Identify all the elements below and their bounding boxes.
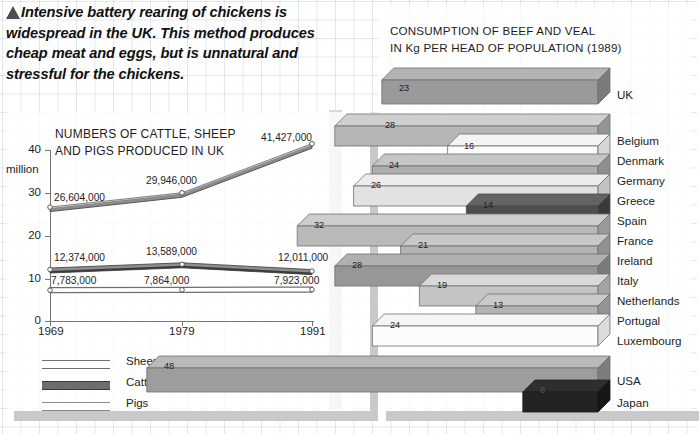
bar-label-denmark: Denmark	[617, 154, 664, 167]
bar-label-portugal: Portugal	[617, 314, 660, 327]
bar-value-japan: 8	[540, 385, 545, 395]
bar-value-belgium: 28	[385, 120, 395, 130]
bar-value-uk: 23	[399, 83, 409, 93]
bar-japan	[523, 380, 610, 412]
bar-value-germany: 24	[389, 160, 399, 170]
bar-value-ireland: 21	[418, 240, 428, 250]
bar-label-netherlands: Netherlands	[617, 294, 680, 307]
bar-luxembourg	[372, 314, 610, 346]
bar-label-belgium: Belgium	[617, 134, 659, 147]
bar-value-denmark: 16	[464, 141, 474, 151]
bar-label-uk: UK	[617, 88, 633, 101]
bar-label-france: France	[617, 234, 653, 247]
bar-label-ireland: Ireland	[617, 254, 652, 267]
bar-value-italy: 28	[352, 260, 362, 270]
bar-label-italy: Italy	[617, 274, 638, 287]
bar-label-germany: Germany	[617, 174, 665, 187]
bar-label-greece: Greece	[617, 194, 655, 207]
bar-label-usa: USA	[617, 374, 641, 387]
bar-value-luxembourg: 24	[390, 320, 400, 330]
bar-uk	[382, 68, 610, 104]
bar-value-netherlands: 19	[437, 280, 447, 290]
bar-value-france: 32	[314, 220, 324, 230]
bar-value-greece: 26	[371, 180, 381, 190]
bar-label-luxembourg: Luxembourg	[617, 334, 681, 347]
bar-label-spain: Spain	[617, 214, 647, 227]
bar-label-japan: Japan	[617, 396, 649, 409]
bar-value-spain: 14	[483, 200, 493, 210]
bar-value-usa: 48	[164, 361, 174, 371]
bar-value-portugal: 13	[493, 300, 503, 310]
